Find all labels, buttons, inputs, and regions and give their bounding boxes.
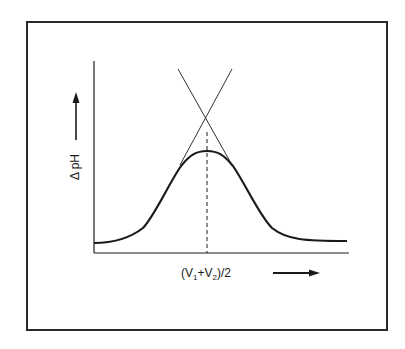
- x-label-mid: +V: [197, 266, 212, 280]
- delta-ph-curve: [94, 151, 347, 243]
- x-label-suffix: )/2: [217, 266, 231, 280]
- figure-canvas: [0, 0, 405, 349]
- x-axis-arrow-icon: [273, 270, 320, 277]
- x-label-prefix: (V: [181, 266, 193, 280]
- y-axis-arrow-icon: [73, 92, 80, 140]
- x-axis-label: (V1+V2)/2: [181, 266, 231, 282]
- y-axis-label: Δ pH: [68, 154, 82, 180]
